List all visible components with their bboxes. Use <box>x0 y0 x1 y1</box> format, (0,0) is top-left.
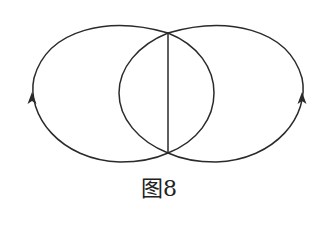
inner-left-arc <box>119 33 168 153</box>
figure-caption: 图8 <box>0 170 318 202</box>
arrow-up-icon-left <box>28 92 37 104</box>
inner-right-arc <box>168 33 214 153</box>
